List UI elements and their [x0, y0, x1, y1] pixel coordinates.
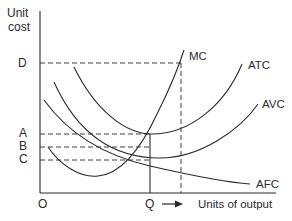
- tick-c: C: [19, 153, 28, 165]
- tick-b: B: [19, 140, 27, 152]
- y-axis-label-line2: cost: [8, 21, 30, 33]
- origin-label: O: [38, 198, 47, 210]
- q-label: Q: [145, 198, 154, 210]
- mc-label: MC: [189, 50, 207, 62]
- q-arrow-icon: [175, 201, 183, 208]
- tick-d: D: [18, 57, 27, 69]
- atc-label: ATC: [248, 59, 270, 71]
- tick-a: A: [19, 127, 27, 139]
- y-axis-label-line1: Unit: [7, 7, 28, 19]
- mc-curve: [48, 50, 184, 176]
- atc-curve: [74, 64, 242, 134]
- cost-curves-chart: [0, 0, 292, 221]
- avc-label: AVC: [262, 98, 285, 110]
- x-axis-label: Units of output: [198, 198, 272, 210]
- afc-label: AFC: [256, 178, 279, 190]
